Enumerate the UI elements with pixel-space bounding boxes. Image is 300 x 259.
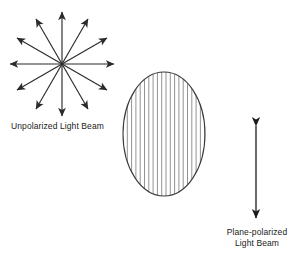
unpolarized-light-beam-label: Unpolarized Light Beam	[11, 121, 104, 131]
unpolarized-ray	[17, 38, 62, 64]
unpolarized-ray	[62, 64, 88, 109]
unpolarized-ray	[36, 64, 62, 109]
unpolarized-ray	[62, 38, 107, 64]
plane-polarized-light-beam-label: Plane-polarized Light Beam	[222, 227, 292, 249]
ellipse-outline	[123, 72, 205, 196]
plane-polarized-label-line1: Plane-polarized	[227, 227, 288, 237]
plane-polarized-label-line2: Light Beam	[235, 238, 279, 248]
unpolarized-ray	[62, 19, 88, 64]
unpolarized-ray	[36, 19, 62, 64]
unpolarized-ray	[17, 64, 62, 90]
unpolarized-ray	[62, 64, 107, 90]
polarization-diagram: Unpolarized Light Beam Plane-polarized L…	[0, 0, 300, 259]
polarizer-ellipse-group	[123, 72, 205, 196]
unpolarized-ray-group	[10, 12, 114, 116]
